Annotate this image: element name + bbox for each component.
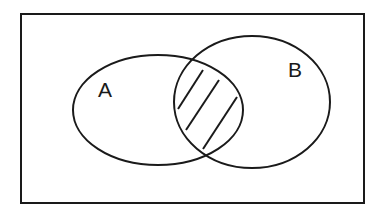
- hatch-line: [203, 97, 237, 149]
- venn-diagram: A B: [0, 0, 383, 214]
- set-a-label: A: [98, 78, 112, 101]
- hatch-line: [178, 70, 203, 109]
- set-b-ellipse: [174, 36, 330, 168]
- set-b-label: B: [288, 58, 302, 81]
- set-a-ellipse: [73, 55, 243, 165]
